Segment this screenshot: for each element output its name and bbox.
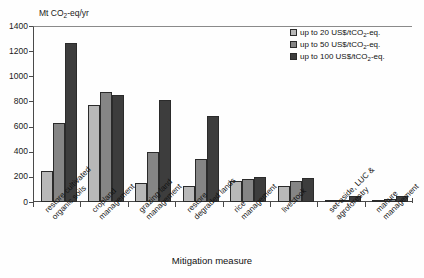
- legend: up to 20 US$/tCO2-eq.up to 50 US$/tCO2-e…: [290, 27, 385, 63]
- legend-label: up to 20 US$/tCO2-eq.: [300, 28, 380, 37]
- legend-swatch: [290, 53, 297, 60]
- x-axis-category-label: croplandmanagement: [90, 175, 136, 221]
- legend-label-prefix: up to 20 US$/tCO: [300, 28, 363, 37]
- legend-item: up to 20 US$/tCO2-eq.: [290, 27, 385, 38]
- legend-label-suffix: -eq.: [367, 28, 381, 37]
- legend-label-suffix: -eq.: [367, 40, 381, 49]
- legend-label-subscript: 2: [368, 56, 371, 62]
- legend-item: up to 50 US$/tCO2-eq.: [290, 39, 385, 50]
- legend-label-subscript: 2: [363, 32, 366, 38]
- legend-label-prefix: up to 100 US$/tCO: [300, 52, 368, 61]
- legend-label: up to 100 US$/tCO2-eq.: [300, 52, 385, 61]
- x-axis-category-label: restoredegraded lands: [185, 169, 237, 221]
- bar-chart: Mt CO2-eq/yr 0200400600800100012001400 r…: [0, 0, 424, 278]
- x-axis-category-label: set-aside, LUC &agroforestry: [327, 165, 383, 221]
- x-axis-category-label: grazing landmanagement: [137, 175, 183, 221]
- x-axis-category-label: restore cultivatedorganic soils: [43, 165, 100, 222]
- x-axis-category-label-line: livestock: [280, 186, 308, 214]
- legend-label: up to 50 US$/tCO2-eq.: [300, 40, 380, 49]
- legend-label-subscript: 2: [363, 44, 366, 50]
- legend-label-suffix: -eq.: [371, 52, 385, 61]
- legend-swatch: [290, 41, 297, 48]
- x-axis-title: Mitigation measure: [0, 255, 424, 266]
- legend-item: up to 100 US$/tCO2-eq.: [290, 51, 385, 62]
- legend-label-prefix: up to 50 US$/tCO: [300, 40, 363, 49]
- x-axis-category-label: ricemanagement: [232, 175, 278, 221]
- x-axis-category-label: manuremanagement: [374, 175, 420, 221]
- legend-swatch: [290, 29, 297, 36]
- x-axis-category-label: livestock: [280, 186, 308, 214]
